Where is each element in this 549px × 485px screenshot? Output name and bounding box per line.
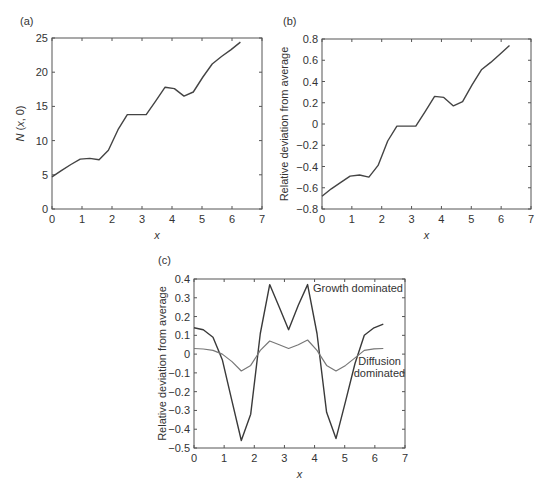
y-tick-label: 0.6	[303, 54, 318, 66]
x-tick-label: 3	[139, 213, 145, 225]
figure-canvas: (a)012345670510152025xN (x, 0)(b)0123456…	[0, 0, 549, 485]
y-tick-label: −0.2	[296, 139, 318, 151]
y-tick-label: −0.8	[296, 203, 318, 215]
x-tick-label: 3	[281, 452, 287, 464]
x-tick-label: 0	[319, 213, 325, 225]
x-axis-label: x	[296, 468, 303, 480]
x-tick-label: 6	[229, 213, 235, 225]
y-tick-label: −0.6	[296, 182, 318, 194]
y-tick-label: 0.1	[175, 329, 190, 341]
panel-label: (c)	[158, 254, 171, 266]
chart-panel-3: (c)01234567−0.5−0.4−0.3−0.2−0.100.10.20.…	[156, 254, 408, 480]
y-tick-label: 0.2	[303, 97, 318, 109]
y-tick-label: −0.2	[168, 386, 190, 398]
x-tick-label: 5	[468, 213, 474, 225]
annotation-label: Diffusion	[358, 355, 401, 367]
x-tick-label: 1	[79, 213, 85, 225]
series-line-relative-deviation	[322, 45, 510, 196]
panel-label: (b)	[283, 15, 296, 27]
y-axis-label: Relative deviation from average	[278, 47, 290, 202]
y-tick-label: 0.2	[175, 311, 190, 323]
y-axis-label: Relative deviation from average	[156, 286, 168, 441]
y-tick-label: 15	[36, 100, 48, 112]
y-tick-label: 0	[42, 203, 48, 215]
y-tick-label: −0.4	[168, 423, 190, 435]
y-axis-label: N (x, 0)	[14, 105, 26, 141]
x-tick-label: 7	[259, 213, 265, 225]
x-tick-label: 2	[109, 213, 115, 225]
y-tick-label: −0.4	[296, 161, 318, 173]
y-tick-label: 10	[36, 135, 48, 147]
x-tick-label: 0	[191, 452, 197, 464]
y-tick-label: −0.3	[168, 404, 190, 416]
y-tick-label: 5	[42, 169, 48, 181]
y-tick-label: 0.4	[175, 273, 190, 285]
series-line-growth-dominated	[194, 285, 383, 441]
x-tick-label: 2	[379, 213, 385, 225]
plot-frame	[322, 39, 531, 209]
series-line-n-x-0-	[52, 42, 240, 177]
y-tick-label: 0	[312, 118, 318, 130]
panel-label: (a)	[20, 15, 33, 27]
annotation-label: dominated	[354, 367, 405, 379]
plot-frame	[52, 38, 262, 209]
y-tick-label: 0.8	[303, 33, 318, 45]
x-tick-label: 4	[438, 213, 444, 225]
x-tick-label: 3	[409, 213, 415, 225]
x-axis-label: x	[423, 229, 430, 241]
y-tick-label: −0.5	[168, 442, 190, 454]
x-tick-label: 7	[402, 452, 408, 464]
x-tick-label: 6	[372, 452, 378, 464]
chart-panel-1: (a)012345670510152025xN (x, 0)	[14, 15, 265, 241]
x-tick-label: 2	[251, 452, 257, 464]
x-axis-label: x	[153, 229, 160, 241]
x-tick-label: 1	[221, 452, 227, 464]
x-tick-label: 6	[498, 213, 504, 225]
x-tick-label: 1	[349, 213, 355, 225]
x-tick-label: 4	[312, 452, 318, 464]
y-tick-label: 20	[36, 66, 48, 78]
y-tick-label: 0.3	[175, 292, 190, 304]
x-tick-label: 5	[342, 452, 348, 464]
annotation-label: Growth dominated	[313, 282, 403, 294]
y-tick-label: 25	[36, 32, 48, 44]
y-tick-label: 0	[184, 348, 190, 360]
x-tick-label: 4	[169, 213, 175, 225]
x-tick-label: 0	[49, 213, 55, 225]
y-tick-label: −0.1	[168, 367, 190, 379]
y-tick-label: 0.4	[303, 76, 318, 88]
chart-panel-2: (b)01234567−0.8−0.6−0.4−0.200.20.40.60.8…	[278, 15, 534, 241]
x-tick-label: 5	[199, 213, 205, 225]
x-tick-label: 7	[528, 213, 534, 225]
